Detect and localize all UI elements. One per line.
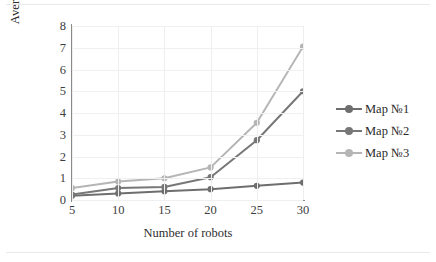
y-axis-tick-label: 4 [44, 107, 66, 120]
y-axis-tick-label: 1 [44, 172, 66, 185]
legend-line-marker-icon [336, 147, 362, 159]
legend-item-label: Map №1 [365, 102, 409, 117]
x-axis-tick-label: 25 [242, 204, 272, 217]
legend-item[interactable]: Map №2 [336, 120, 432, 142]
x-axis-tick-label: 5 [57, 204, 87, 217]
gridline-horizontal [72, 200, 303, 201]
x-axis-title: Number of robots [71, 226, 305, 241]
legend-line-marker-icon [336, 125, 362, 137]
y-axis-tick-label: 2 [44, 151, 66, 164]
y-axis-tick-labels: 876543210 [40, 0, 66, 262]
y-axis-tick-label: 5 [44, 85, 66, 98]
figure-bottom-rule [6, 252, 430, 253]
figure-top-rule [6, 4, 430, 5]
chart-figure: Average time of calculation, s 876543210… [0, 0, 436, 262]
series-line [72, 47, 303, 188]
gridline-vertical [257, 26, 258, 200]
gridline-horizontal [72, 157, 303, 158]
y-axis-tick-label: 3 [44, 129, 66, 142]
y-axis-tick-label: 7 [44, 42, 66, 55]
gridline-horizontal [72, 113, 303, 114]
plot-area [72, 26, 303, 200]
gridline-vertical [164, 26, 165, 200]
gridline-vertical [211, 26, 212, 200]
legend-item[interactable]: Map №1 [336, 98, 432, 120]
x-axis-tick-label: 15 [149, 204, 179, 217]
y-axis-title-text: Average time of calculation, s [8, 0, 23, 38]
gridline-vertical [118, 26, 119, 200]
x-axis-tick-label: 20 [196, 204, 226, 217]
gridline-horizontal [72, 91, 303, 92]
legend-item[interactable]: Map №3 [336, 142, 432, 164]
gridline-horizontal [72, 135, 303, 136]
gridline-horizontal [72, 70, 303, 71]
legend-line-marker-icon [336, 103, 362, 115]
x-axis-tick-label: 30 [288, 204, 318, 217]
y-axis-tick-label: 8 [44, 20, 66, 33]
x-axis-tick-label: 10 [103, 204, 133, 217]
gridline-horizontal [72, 178, 303, 179]
chart-legend: Map №1Map №2Map №3 [336, 98, 432, 164]
y-axis-tick-label: 6 [44, 64, 66, 77]
series-line [72, 91, 303, 194]
legend-item-label: Map №2 [365, 124, 409, 139]
gridline-horizontal [72, 48, 303, 49]
y-axis-title: Average time of calculation, s [8, 0, 26, 38]
legend-item-label: Map №3 [365, 146, 409, 161]
series-3 [72, 44, 303, 192]
gridline-horizontal [72, 26, 303, 27]
gridline-vertical [303, 26, 304, 200]
gridline-vertical [72, 26, 73, 200]
